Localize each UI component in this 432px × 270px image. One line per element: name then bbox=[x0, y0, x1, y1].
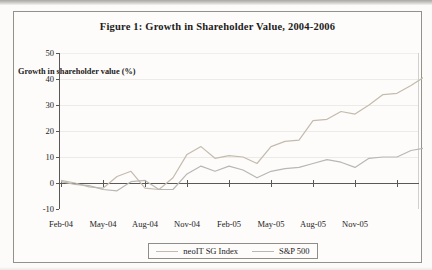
y-tick-label: 20 bbox=[22, 127, 54, 136]
y-tick-label: 10 bbox=[22, 153, 54, 162]
sp500-line-sample-icon bbox=[252, 251, 274, 252]
scan-artifact-top-edge bbox=[0, 0, 432, 5]
legend-label: neoIT SG Index bbox=[183, 247, 238, 256]
x-tick-label: Nov-05 bbox=[333, 219, 377, 229]
y-tick-label: 30 bbox=[22, 101, 54, 110]
legend-item-neoit-sg-index: neoIT SG Index bbox=[156, 247, 238, 256]
y-tick-label: 50 bbox=[22, 49, 54, 58]
chart-legend: neoIT SG Index S&P 500 bbox=[148, 243, 318, 259]
x-tick-label: May-04 bbox=[81, 219, 125, 229]
x-tick-label: Aug-04 bbox=[123, 219, 167, 229]
figure-box: Figure 1: Growth in Shareholder Value, 2… bbox=[13, 11, 422, 263]
series-line-neoit-sg-index bbox=[61, 76, 423, 189]
y-tick-label: -10 bbox=[22, 205, 54, 214]
y-tick-label: 40 bbox=[22, 75, 54, 84]
legend-label: S&P 500 bbox=[279, 247, 310, 256]
figure-title: Figure 1: Growth in Shareholder Value, 2… bbox=[14, 21, 421, 32]
series-line-sp500 bbox=[61, 148, 423, 191]
neoit-line-sample-icon bbox=[156, 251, 178, 252]
x-tick-label: Aug-05 bbox=[291, 219, 335, 229]
legend-item-sp500: S&P 500 bbox=[252, 247, 310, 256]
x-tick-label: May-05 bbox=[249, 219, 293, 229]
y-tick-label: 0 bbox=[22, 179, 54, 188]
x-tick-label: Feb-05 bbox=[207, 219, 251, 229]
x-tick-label: Feb-04 bbox=[39, 219, 83, 229]
line-chart-plot-area bbox=[55, 53, 423, 210]
x-tick-label: Nov-04 bbox=[165, 219, 209, 229]
